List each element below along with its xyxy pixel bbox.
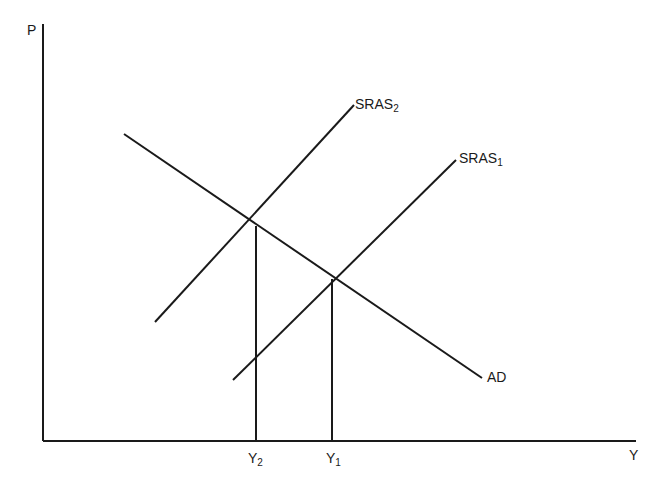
sras2-label: SRAS2 — [355, 96, 399, 112]
ad-label: AD — [487, 369, 506, 385]
sras1-curve — [233, 160, 456, 380]
diagram-canvas — [0, 0, 667, 489]
x-axis-label: Y — [629, 447, 638, 463]
tick-label-y2: Y2 — [248, 450, 263, 466]
tick-label-y1: Y1 — [326, 450, 341, 466]
ad-curve — [124, 134, 482, 378]
y-axis-label: P — [27, 22, 36, 38]
sras1-label: SRAS1 — [459, 150, 503, 166]
